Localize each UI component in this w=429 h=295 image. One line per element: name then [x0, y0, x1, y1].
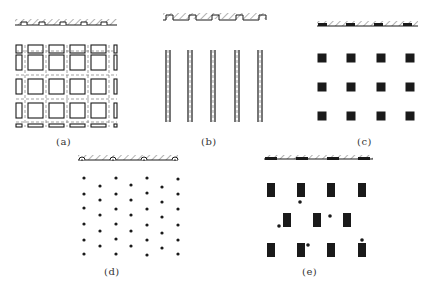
- dot: [160, 215, 163, 218]
- block: [377, 54, 386, 63]
- block: [318, 54, 327, 63]
- pad: [318, 23, 327, 26]
- block: [347, 112, 356, 121]
- dot: [176, 252, 179, 255]
- pad: [403, 23, 412, 26]
- dot: [82, 176, 85, 179]
- cell: [16, 103, 22, 118]
- cell: [70, 55, 85, 70]
- cell: [114, 124, 117, 127]
- cell: [70, 45, 85, 53]
- diagram-canvas: [0, 0, 429, 295]
- pad: [265, 157, 277, 160]
- block: [318, 83, 327, 92]
- dot: [82, 206, 85, 209]
- block: [297, 243, 305, 257]
- notch: [101, 22, 107, 25]
- dot: [129, 183, 132, 186]
- panel-d-dot-array: [78, 155, 180, 257]
- panel-e-staggered-blocks: [264, 155, 373, 257]
- block: [343, 213, 351, 227]
- block: [327, 183, 335, 197]
- pad: [327, 157, 339, 160]
- cell: [91, 124, 106, 127]
- dot: [176, 177, 179, 180]
- dot: [82, 238, 85, 241]
- dot: [176, 238, 179, 241]
- dot: [98, 229, 101, 232]
- cell: [28, 124, 43, 127]
- cell: [114, 103, 117, 118]
- dot: [160, 246, 163, 249]
- bump-dot: [112, 159, 114, 161]
- block: [347, 83, 356, 92]
- cell: [49, 124, 64, 127]
- cell: [70, 124, 85, 127]
- hatched-ground: [317, 21, 418, 26]
- cell: [16, 55, 22, 70]
- panel-a-square-grid: [15, 19, 117, 127]
- dot: [145, 238, 148, 241]
- cell: [70, 103, 85, 118]
- dot: [160, 231, 163, 234]
- dot: [277, 224, 281, 228]
- cell: [16, 79, 22, 94]
- panel-c-block-grid: [317, 21, 418, 121]
- dot: [328, 214, 332, 218]
- hatched-ground: [264, 155, 373, 159]
- block: [358, 243, 366, 257]
- dot: [129, 213, 132, 216]
- block: [358, 183, 366, 197]
- notch: [21, 22, 27, 25]
- dot: [129, 198, 132, 201]
- block: [297, 183, 305, 197]
- dot: [98, 198, 101, 201]
- dot: [360, 238, 364, 242]
- block: [267, 243, 275, 257]
- pad: [374, 23, 383, 26]
- cell: [28, 55, 43, 70]
- dot: [145, 176, 148, 179]
- cell: [91, 55, 106, 70]
- pad: [358, 157, 370, 160]
- dot: [114, 252, 117, 255]
- block: [283, 213, 291, 227]
- panel-b-strip-pillars: [163, 13, 266, 122]
- figure: (a) (b) (c) (d) (e): [0, 0, 429, 295]
- cell: [114, 79, 117, 94]
- block: [377, 112, 386, 121]
- block: [313, 213, 321, 227]
- dot: [129, 229, 132, 232]
- cell: [49, 103, 64, 118]
- caption-b: (b): [201, 136, 217, 147]
- pad: [346, 23, 355, 26]
- dot: [176, 207, 179, 210]
- cell: [28, 103, 43, 118]
- dot: [114, 222, 117, 225]
- bump-dot: [81, 159, 83, 161]
- cell: [91, 103, 106, 118]
- dot: [145, 207, 148, 210]
- cell: [28, 45, 43, 53]
- block: [406, 83, 415, 92]
- cell: [91, 45, 106, 53]
- block: [327, 243, 335, 257]
- dot: [82, 252, 85, 255]
- cell: [49, 55, 64, 70]
- cell: [16, 124, 22, 127]
- block: [406, 54, 415, 63]
- cell: [49, 45, 64, 53]
- dot: [82, 192, 85, 195]
- dot: [98, 213, 101, 216]
- dot: [160, 200, 163, 203]
- dot: [82, 222, 85, 225]
- block: [347, 54, 356, 63]
- dot: [160, 185, 163, 188]
- notch: [39, 22, 45, 25]
- dot: [176, 223, 179, 226]
- dot: [129, 244, 132, 247]
- dot: [114, 192, 117, 195]
- block: [377, 83, 386, 92]
- dot: [98, 244, 101, 247]
- caption-a: (a): [56, 136, 71, 147]
